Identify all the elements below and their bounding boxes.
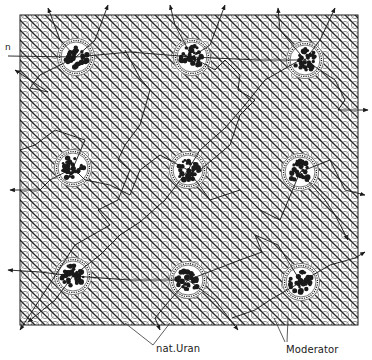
neutron-label: n — [5, 42, 11, 52]
fuel-label: nat.Uran — [156, 343, 200, 354]
reactor-lattice-diagram — [0, 0, 372, 360]
moderator-label: Moderator — [286, 344, 339, 355]
